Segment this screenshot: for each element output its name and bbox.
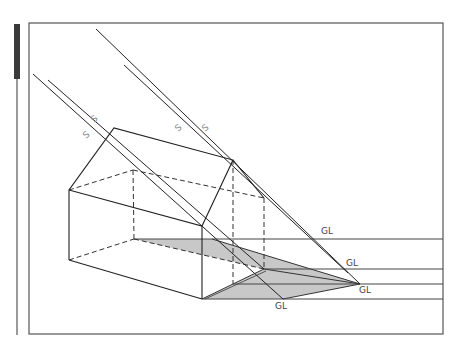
house-solid-edges — [69, 128, 264, 299]
ground-line-label: GL — [321, 226, 333, 236]
ground-line-label: GL — [359, 285, 371, 295]
house-hidden-edges — [69, 160, 264, 284]
ground-line-label: GL — [346, 258, 358, 268]
ground-line-label: GL — [275, 301, 287, 311]
shadow-projection-diagram: S S S S GL GL GL GL — [0, 0, 461, 345]
sun-ray-label: S — [200, 122, 211, 134]
sun-rays — [33, 29, 360, 299]
sun-ray-label: S — [81, 129, 92, 141]
sun-ray-label: S — [89, 113, 100, 125]
sun-ray-label: S — [173, 122, 184, 134]
